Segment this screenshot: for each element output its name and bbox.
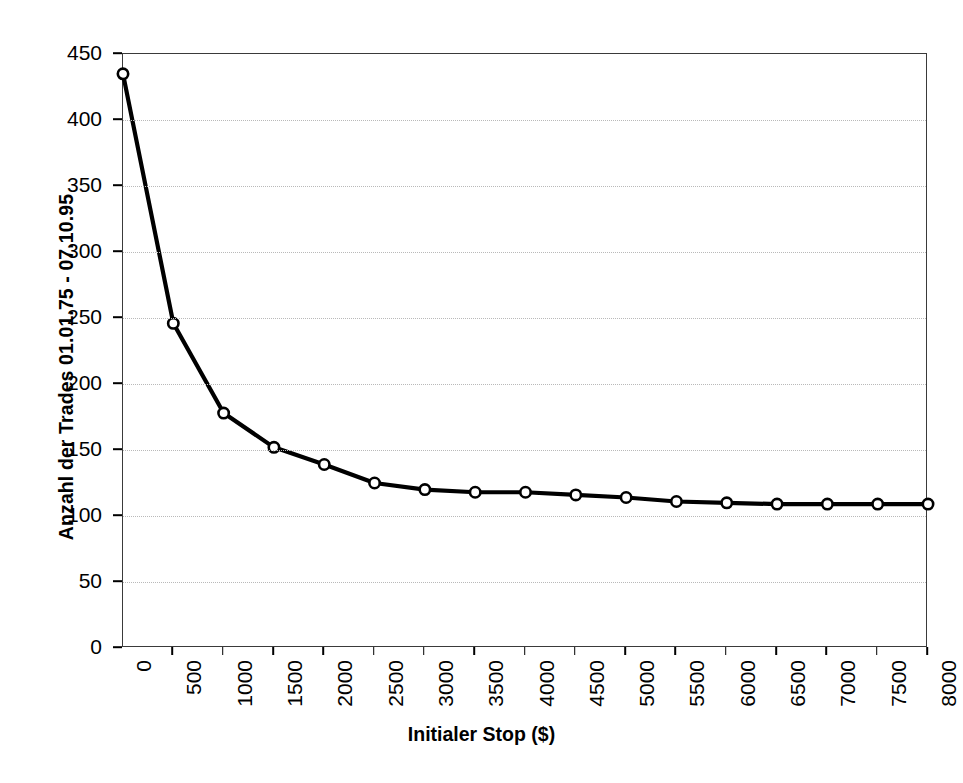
x-tick-mark bbox=[675, 647, 677, 655]
x-tick-label: 7500 bbox=[887, 660, 911, 707]
x-tick-mark bbox=[172, 647, 174, 655]
x-tick-mark bbox=[524, 647, 526, 655]
x-tick-label: 500 bbox=[182, 660, 206, 695]
x-tick-label: 5500 bbox=[685, 660, 709, 707]
x-axis-ticks: 0500100015002000250030003500400045005000… bbox=[0, 0, 963, 783]
x-tick-mark bbox=[876, 647, 878, 655]
x-tick-label: 2000 bbox=[333, 660, 357, 707]
x-tick-label: 8000 bbox=[937, 660, 961, 707]
x-tick-mark bbox=[574, 647, 576, 655]
x-axis-title: Initialer Stop ($) bbox=[0, 723, 963, 746]
x-tick-label: 1000 bbox=[233, 660, 257, 707]
x-tick-label: 5000 bbox=[635, 660, 659, 707]
x-tick-mark bbox=[473, 647, 475, 655]
x-tick-mark bbox=[423, 647, 425, 655]
x-tick-label: 0 bbox=[132, 660, 156, 672]
x-tick-mark bbox=[272, 647, 274, 655]
x-tick-mark bbox=[322, 647, 324, 655]
x-tick-mark bbox=[624, 647, 626, 655]
x-tick-label: 1500 bbox=[283, 660, 307, 707]
x-tick-mark bbox=[725, 647, 727, 655]
x-tick-label: 3500 bbox=[484, 660, 508, 707]
x-tick-label: 3000 bbox=[434, 660, 458, 707]
x-tick-mark bbox=[222, 647, 224, 655]
x-tick-label: 6000 bbox=[736, 660, 760, 707]
x-tick-mark bbox=[775, 647, 777, 655]
x-tick-mark bbox=[926, 647, 928, 655]
x-tick-label: 2500 bbox=[384, 660, 408, 707]
x-tick-label: 4000 bbox=[535, 660, 559, 707]
x-tick-label: 6500 bbox=[786, 660, 810, 707]
x-tick-label: 7000 bbox=[836, 660, 860, 707]
x-tick-mark bbox=[826, 647, 828, 655]
chart-figure: Anzahl der Trades 01.01.75 - 07.10.95 05… bbox=[0, 0, 963, 783]
x-tick-mark bbox=[373, 647, 375, 655]
x-tick-label: 4500 bbox=[585, 660, 609, 707]
